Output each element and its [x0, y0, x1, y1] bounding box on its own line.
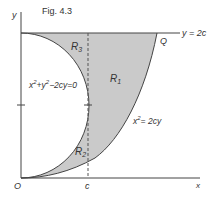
diagram-canvas: Fig. 4.3 y x O c y = 2c Q R3 R1 R2 x2+y2… — [0, 0, 215, 197]
circle-equation: x2+y2−2cy=0 — [28, 79, 77, 90]
figure-4-3: Fig. 4.3 y x O c y = 2c Q R3 R1 R2 x2+y2… — [0, 0, 215, 197]
point-q-label: Q — [160, 36, 167, 46]
parabola-equation: x2= 2cy — [132, 115, 162, 126]
y-axis-label: y — [11, 10, 17, 20]
x-axis-label: x — [195, 181, 201, 190]
origin-label: O — [14, 181, 21, 191]
c-label: c — [85, 181, 90, 191]
line-label: y = 2c — [181, 28, 207, 38]
figure-title: Fig. 4.3 — [42, 6, 72, 16]
